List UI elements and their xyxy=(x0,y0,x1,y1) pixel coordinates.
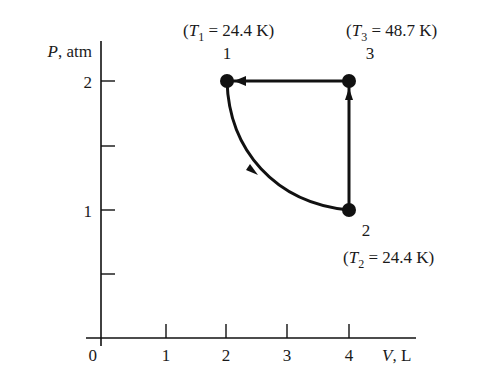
y-axis-label: P, atm xyxy=(47,42,92,61)
point-1-temp: (T1 = 24.4 K) xyxy=(183,21,274,44)
arrow-3-to-1-icon xyxy=(234,76,246,86)
x-tick-label-4: 4 xyxy=(345,346,354,365)
path-1-to-2 xyxy=(227,81,349,210)
x-axis-label: V, L xyxy=(382,346,411,365)
state-point-2 xyxy=(342,203,356,217)
state-point-3 xyxy=(342,74,356,88)
arrow-1-to-2-icon xyxy=(246,164,258,175)
axes xyxy=(86,41,416,346)
state-point-1 xyxy=(220,74,234,88)
y-tick-label-2: 2 xyxy=(84,73,93,92)
point-1-number: 1 xyxy=(223,44,232,63)
origin-label: 0 xyxy=(89,346,98,365)
point-2-number: 2 xyxy=(362,221,371,240)
x-tick-label-2: 2 xyxy=(222,346,231,365)
arrow-2-to-3-icon xyxy=(345,88,353,100)
pv-diagram: P, atm 2 1 0 1 2 3 4 V, L 1 (T1 = 24.4 K… xyxy=(0,0,488,381)
x-tick-label-3: 3 xyxy=(283,346,292,365)
point-2-temp: (T2 = 24.4 K) xyxy=(343,248,434,271)
point-3-temp: (T3 = 48.7 K) xyxy=(346,21,437,44)
x-tick-label-1: 1 xyxy=(162,346,171,365)
point-3-number: 3 xyxy=(366,44,375,63)
y-tick-label-1: 1 xyxy=(84,202,93,221)
cycle-paths xyxy=(227,76,353,210)
